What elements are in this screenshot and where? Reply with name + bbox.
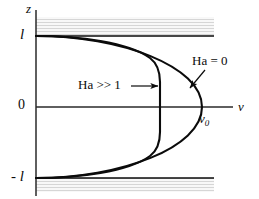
bottom-wall-hatching (36, 178, 214, 192)
centerline-velocity-label: v0 (199, 112, 209, 128)
v-axis-label: v (238, 100, 244, 113)
y-tick-label-origin: 0 (18, 98, 25, 112)
figure-canvas (0, 0, 259, 199)
annotation-ha-zero: Ha = 0 (192, 54, 228, 67)
y-tick-label-lower-wall: - l (11, 169, 24, 184)
annotation-ha-large: Ha >> 1 (78, 78, 121, 91)
hartmann-velocity-profile-figure: z v l 0 - l Ha = 0 Ha >> 1 v0 (0, 0, 259, 199)
z-axis-label: z (26, 2, 31, 15)
top-wall-hatching (36, 17, 214, 36)
ha-zero-leader-arrow (190, 70, 205, 88)
y-tick-label-upper-wall: l (20, 27, 24, 42)
centerline-velocity-subscript: 0 (205, 118, 210, 128)
